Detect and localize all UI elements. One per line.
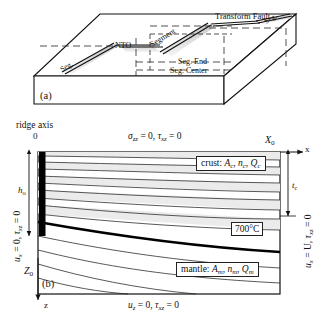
panel-a-tag: (a) (40, 90, 52, 102)
figure-root: Transform Fault NTO Segment Seg. Seg. Se… (0, 0, 320, 328)
z-extent-label: Zo (24, 265, 33, 278)
x-axis-label: x (305, 144, 310, 154)
crust-material-label: crust: Ac, nc, Qc (196, 156, 266, 171)
z-axis-label: z (44, 300, 48, 310)
mantle-material-label: mantle: Am, nm, Qm (176, 262, 259, 277)
nto-label: NTO (115, 41, 132, 50)
ridge-axis-injection-bar (39, 152, 46, 236)
block-front-face (34, 76, 224, 104)
left-boundary-condition: ux = 0, τxz = 0 (12, 211, 23, 262)
h-o-label: ho (18, 185, 26, 196)
t-c-label: tc (292, 180, 297, 191)
top-boundary-condition: σzz = 0, τxz = 0 (128, 131, 182, 142)
right-boundary-condition: ux = U, τxz = 0 (303, 215, 314, 268)
panel-b-tag: (b) (42, 278, 55, 290)
panel-b-cross-section: (b) (29, 152, 310, 300)
seg-end-label: Seg. End (178, 57, 207, 66)
origin-label: 0 (33, 131, 38, 141)
x-extent-label: Xo (265, 134, 275, 147)
bottom-boundary-condition: uz = 0, τxz = 0 (128, 300, 179, 311)
ridge-axis-label: ridge axis (16, 120, 53, 130)
seg-center-label: Seg. Center (170, 66, 208, 75)
isotherm-700c-label: 700°C (231, 222, 263, 236)
panel-a-block-diagram: Transform Fault NTO Segment Seg. Seg. Se… (34, 11, 296, 104)
